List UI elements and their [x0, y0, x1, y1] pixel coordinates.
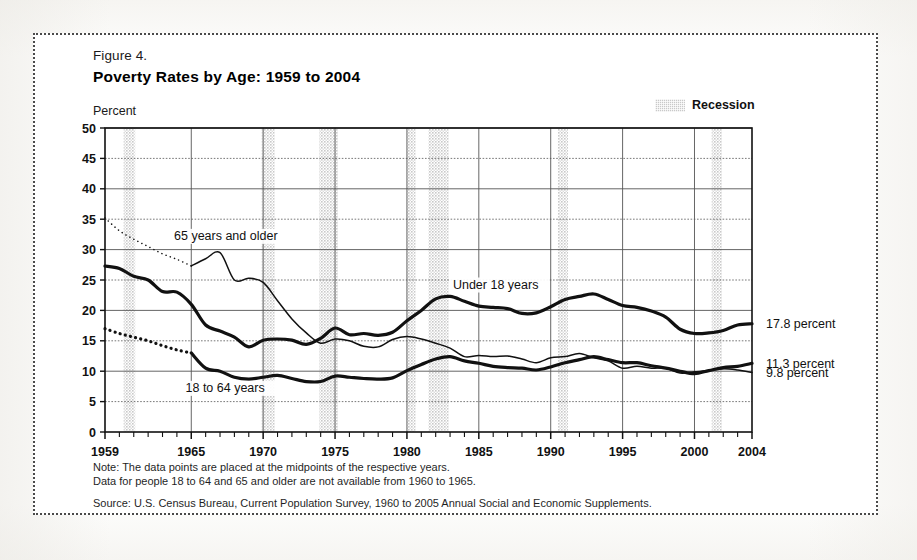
x-tick-label: 1990 [537, 445, 565, 459]
y-axis: 05101520253035404550 [82, 122, 105, 440]
series-label: Under 18 years [453, 278, 538, 292]
y-tick-label: 30 [82, 243, 96, 257]
x-tick-label: 2004 [738, 445, 766, 459]
figure-page: Figure 4. Poverty Rates by Age: 1959 to … [0, 0, 917, 560]
x-tick-label: 1970 [249, 445, 277, 459]
y-tick-label: 15 [82, 334, 96, 348]
y-tick-label: 25 [82, 274, 96, 288]
x-tick-label: 2000 [681, 445, 709, 459]
x-tick-label: 1980 [393, 445, 421, 459]
y-tick-label: 20 [82, 304, 96, 318]
y-tick-label: 45 [82, 152, 96, 166]
recession-band [407, 128, 416, 432]
series-label: 18 to 64 years [186, 381, 265, 395]
series-line [191, 353, 752, 382]
y-tick-label: 0 [89, 426, 96, 440]
x-tick-label: 1959 [91, 445, 119, 459]
y-tick-label: 50 [82, 122, 96, 136]
x-tick-label: 1965 [177, 445, 205, 459]
source-line: Source: U.S. Census Bureau, Current Popu… [93, 496, 652, 510]
x-tick-label: 1995 [609, 445, 637, 459]
end-label: 17.8 percent [766, 317, 836, 331]
y-tick-label: 5 [89, 395, 96, 409]
x-tick-label: 1985 [465, 445, 493, 459]
x-tick-label: 1975 [321, 445, 349, 459]
y-tick-label: 40 [82, 182, 96, 196]
end-label: 9.8 percent [766, 366, 829, 380]
y-tick-label: 35 [82, 213, 96, 227]
series-line [191, 252, 752, 373]
note-line-1: Note: The data points are placed at the … [93, 460, 450, 474]
x-axis: 1959196519701975198019851990199520002004 [91, 432, 766, 459]
note-line-2: Data for people 18 to 64 and 65 and olde… [93, 474, 476, 488]
series-label: 65 years and older [174, 229, 278, 243]
y-tick-label: 10 [82, 365, 96, 379]
end-labels: 17.8 percent11.3 percent9.8 percent [766, 317, 836, 380]
